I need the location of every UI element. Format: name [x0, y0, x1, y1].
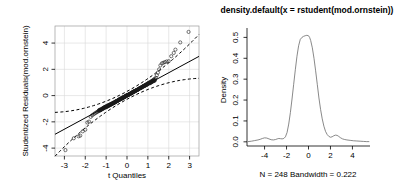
- qq-y-tick-label: -2: [41, 118, 50, 126]
- qq-plot-svg: -3-2-10123-4-2024 t Quantiles Studentize…: [0, 0, 205, 190]
- qq-y-tick-label: -4: [41, 144, 50, 152]
- qq-x-tick-label: -2: [82, 161, 90, 170]
- density-y-tick-label: 0.2: [231, 94, 240, 106]
- qq-x-tick-label: -1: [103, 161, 111, 170]
- density-caption: N = 248 Bandwidth = 0.222: [260, 170, 358, 179]
- qq-data-point: [174, 48, 177, 51]
- qq-y-tick-label: 2: [41, 67, 50, 72]
- qq-y-tick-label: 0: [41, 93, 50, 98]
- qq-y-axis-label: Studentized Residuals(mod.ornstein): [21, 25, 30, 157]
- density-y-tick-label: 0.3: [231, 73, 240, 85]
- density-y-tick-label: 0.1: [231, 115, 240, 127]
- density-y-tick-label: 0.0: [231, 136, 240, 148]
- density-y-tick-label: 0.5: [231, 31, 240, 43]
- qq-x-axis-label: t Quantiles: [108, 171, 146, 180]
- density-x-tick-label: 0: [306, 151, 311, 160]
- qq-x-tick-label: 3: [187, 161, 192, 170]
- qq-data-point: [72, 137, 75, 140]
- density-x-tick-label: 2: [328, 151, 333, 160]
- density-y-axis-label: Density: [219, 77, 228, 104]
- qq-plot-panel: -3-2-10123-4-2024 t Quantiles Studentize…: [0, 0, 205, 190]
- density-curve: [248, 35, 369, 141]
- density-plot-svg: density.default(x = rstudent(mod.ornstei…: [205, 0, 410, 190]
- qq-x-tick-label: 0: [125, 161, 130, 170]
- qq-x-tick-label: -3: [61, 161, 69, 170]
- density-plot-panel: density.default(x = rstudent(mod.ornstei…: [205, 0, 410, 190]
- density-x-tick-label: -2: [283, 151, 291, 160]
- qq-x-tick-label: 1: [146, 161, 151, 170]
- qq-y-tick-label: 4: [41, 40, 50, 45]
- density-axis-ticks: [244, 37, 353, 149]
- density-y-tick-label: 0.4: [231, 52, 240, 64]
- density-x-tick-label: 4: [350, 151, 355, 160]
- density-tick-labels: -4-20240.00.10.20.30.40.5: [231, 31, 355, 160]
- qq-data-point: [172, 51, 175, 54]
- density-plot-title: density.default(x = rstudent(mod.ornstei…: [221, 5, 394, 15]
- figure-root: -3-2-10123-4-2024 t Quantiles Studentize…: [0, 0, 410, 190]
- density-x-tick-label: -4: [261, 151, 269, 160]
- qq-data-point: [179, 41, 182, 44]
- qq-x-tick-label: 2: [167, 161, 172, 170]
- qq-data-point: [170, 55, 173, 58]
